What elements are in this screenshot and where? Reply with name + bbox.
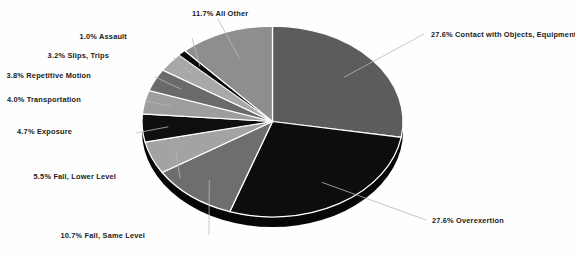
pie-slice [273,26,404,137]
slice-label-fall-same-level: 10.7% Fall, Same Level [61,232,145,239]
slice-label-all-other: 11.7% All Other [192,10,248,17]
slice-label-assault: 1.0% Assault [80,33,127,40]
slice-label-exposure: 4.7% Exposure [17,128,72,135]
slice-label-contact-with-objects: 27.6% Contact with Objects, Equipment [431,31,575,38]
pie-slices-group [142,26,403,217]
pie-chart-figure: 27.6% Contact with Objects, Equipment 27… [0,0,575,254]
slice-label-transportation: 4.0% Transportation [7,96,81,103]
slice-label-slips-trips: 3.2% Slips, Trips [48,52,109,59]
slice-label-fall-lower-level: 5.5% Fall, Lower Level [34,173,116,180]
slice-label-overexertion: 27.6% Overexertion [432,217,504,224]
slice-label-repetitive-motion: 3.8% Repetitive Motion [7,72,91,79]
